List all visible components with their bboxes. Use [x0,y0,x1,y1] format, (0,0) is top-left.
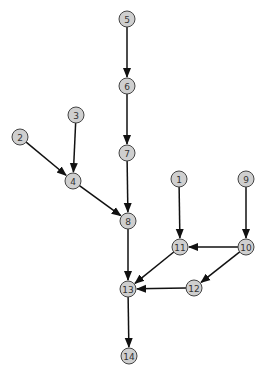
node-label: 7 [124,149,130,159]
node-11: 11 [172,239,188,255]
node-label: 3 [73,111,79,121]
node-2: 2 [12,129,28,145]
node-13: 13 [120,281,136,297]
node-label: 2 [17,133,23,143]
node-label: 8 [125,217,131,227]
node-label: 9 [243,175,249,185]
edge-2-to-4 [26,142,66,175]
node-1: 1 [171,171,187,187]
node-5: 5 [119,11,135,27]
edges-layer [26,27,246,347]
node-8: 8 [120,213,136,229]
node-14: 14 [121,348,137,364]
node-label: 13 [122,285,133,295]
node-3: 3 [68,107,84,123]
node-label: 12 [188,284,199,294]
node-9: 9 [238,171,254,187]
node-6: 6 [119,78,135,94]
node-label: 6 [124,82,130,92]
node-10: 10 [238,239,254,255]
directed-graph: 1234567891011121314 [0,0,266,371]
edge-12-to-13 [137,288,186,289]
edge-11-to-13 [135,252,174,283]
node-label: 11 [174,243,185,253]
edge-7-to-8 [127,161,128,212]
node-12: 12 [186,280,202,296]
node-label: 10 [240,243,252,253]
edge-3-to-4 [73,123,75,172]
node-label: 1 [176,175,182,185]
edge-1-to-11 [179,187,180,238]
node-7: 7 [119,145,135,161]
node-label: 14 [123,352,135,362]
node-4: 4 [65,173,81,189]
edge-13-to-14 [128,297,129,347]
node-label: 5 [124,15,130,25]
node-label: 4 [70,177,76,187]
edge-4-to-8 [79,186,120,216]
edge-10-to-12 [201,252,240,282]
nodes-layer: 1234567891011121314 [12,11,254,364]
